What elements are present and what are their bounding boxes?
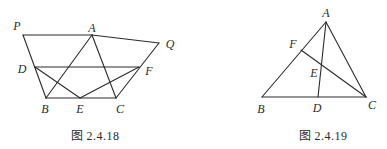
point-label-e: E xyxy=(309,66,318,80)
point-label-c: C xyxy=(368,98,377,112)
figure-2-4-19: AFEBDC 图 2.4.19 xyxy=(257,6,377,143)
point-label-q: Q xyxy=(166,37,175,51)
point-label-f: F xyxy=(144,64,153,78)
segment-ef xyxy=(80,67,139,98)
segment-aq xyxy=(92,35,159,43)
segment-ab xyxy=(262,22,326,97)
point-label-f: F xyxy=(288,37,297,51)
figure-2-4-18-caption: 图 2.4.18 xyxy=(71,129,120,143)
point-label-b: B xyxy=(257,102,265,116)
geometry-figures: PAQDFBEC 图 2.4.18 AFEBDC 图 2.4.19 xyxy=(0,0,387,149)
segment-de xyxy=(35,67,80,98)
point-label-b: B xyxy=(41,102,49,116)
point-label-a: A xyxy=(87,21,96,35)
figure-2-4-19-caption: 图 2.4.19 xyxy=(299,129,348,143)
point-label-c: C xyxy=(116,102,125,116)
segment-ac xyxy=(326,22,366,97)
segment-ad xyxy=(318,22,326,97)
figure-2-4-18-segments xyxy=(23,35,159,98)
point-label-d: D xyxy=(17,62,27,76)
point-label-a: A xyxy=(321,6,330,20)
figure-2-4-18: PAQDFBEC 图 2.4.18 xyxy=(12,19,174,143)
point-label-p: P xyxy=(12,19,21,33)
point-label-d: D xyxy=(312,101,322,115)
figure-2-4-19-point-labels: AFEBDC xyxy=(257,6,377,116)
figure-2-4-19-segments xyxy=(262,22,366,97)
point-label-e: E xyxy=(75,102,84,116)
